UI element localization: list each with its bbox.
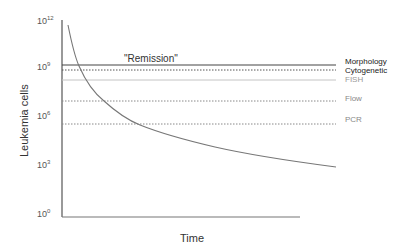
- svg-text:100: 100: [37, 208, 51, 219]
- label-fish: FISH: [345, 75, 363, 84]
- chart: 1012 109 106 103 100 "Remission" Morphol…: [0, 0, 405, 252]
- y-axis-label: Leukemia cells: [18, 84, 30, 157]
- remission-annotation: "Remission": [124, 53, 178, 64]
- svg-text:109: 109: [37, 61, 51, 72]
- label-cytogenetic: Cytogenetic: [345, 66, 387, 75]
- svg-text:1012: 1012: [37, 15, 54, 26]
- svg-text:103: 103: [37, 159, 51, 170]
- label-flow: Flow: [345, 94, 362, 103]
- svg-text:106: 106: [37, 110, 51, 121]
- label-pcr: PCR: [345, 115, 362, 124]
- y-tick-labels: 1012 109 106 103 100: [37, 15, 54, 219]
- x-axis-label: Time: [180, 232, 204, 244]
- leukemia-curve: [68, 25, 336, 167]
- label-morphology: Morphology: [345, 57, 387, 66]
